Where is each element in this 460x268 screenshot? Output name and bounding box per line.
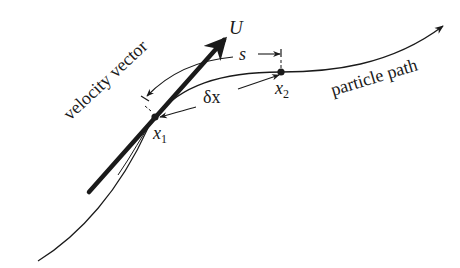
diagram-canvas: U s δx x1 x2 velocity vector particle pa… xyxy=(0,0,460,268)
point-x1-dot xyxy=(151,113,158,120)
s-tick-left xyxy=(141,96,149,101)
s-tick-left-dash xyxy=(145,106,151,111)
delta-symbol: δx xyxy=(203,87,220,107)
point-x2-dot xyxy=(277,68,284,75)
velocity-symbol-label: U xyxy=(229,17,244,38)
arc-length-label: s xyxy=(239,44,246,64)
particle-path-label: particle path xyxy=(328,55,419,100)
velocity-vector-label: velocity vector xyxy=(59,36,151,124)
displacement-label: δx xyxy=(203,87,220,107)
point-x1-label: x1 xyxy=(152,123,167,146)
dx-arrow-right xyxy=(238,75,279,89)
diagram-svg: U s δx x1 x2 velocity vector particle pa… xyxy=(0,0,460,268)
point-x2-label: x2 xyxy=(274,78,289,101)
